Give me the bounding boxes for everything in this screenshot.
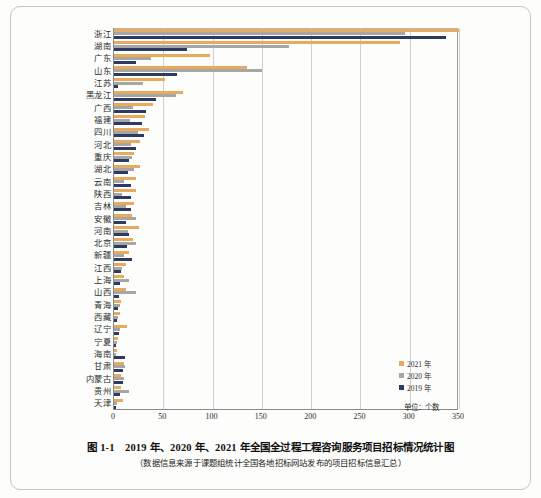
bar-group-14 xyxy=(114,201,458,213)
y-axis-label-26: 海南 xyxy=(94,350,111,359)
x-tick-50: 50 xyxy=(158,412,166,421)
bar-2019年-宁夏 xyxy=(114,344,116,347)
bar-2019年-黑龙江 xyxy=(114,98,156,101)
bar-2019年-河北 xyxy=(114,147,136,150)
bar-2019年-北京 xyxy=(114,245,127,248)
bar-2019年-新疆 xyxy=(114,258,132,261)
legend-item-2019年[interactable]: 2019 年 xyxy=(399,381,451,393)
bar-2019年-陕西 xyxy=(114,196,131,199)
y-axis-label-12: 云南 xyxy=(94,178,111,187)
plot-area xyxy=(113,28,458,410)
unit-label: 单位：个数 xyxy=(404,401,439,412)
bar-2019年-福建 xyxy=(114,122,142,125)
bar-2019年-安徽 xyxy=(114,221,126,224)
y-axis-label-17: 北京 xyxy=(94,239,111,248)
bar-group-22 xyxy=(114,299,458,311)
y-axis-label-16: 河南 xyxy=(94,227,111,236)
x-tick-150: 150 xyxy=(255,412,267,421)
legend-item-2020年[interactable]: 2020 年 xyxy=(399,369,451,381)
figure-caption: 图 1-1 2019 年、2020 年、2021 年全国全过程工程咨询服务项目招… xyxy=(0,440,541,471)
bar-2019年-甘肃 xyxy=(114,369,123,372)
y-axis-label-0: 浙江 xyxy=(94,30,111,39)
legend-swatch-icon xyxy=(399,373,404,378)
y-axis-label-30: 天津 xyxy=(94,399,111,408)
bar-group-1 xyxy=(114,40,458,52)
y-axis-label-9: 河北 xyxy=(94,141,111,150)
bar-group-11 xyxy=(114,164,458,176)
bar-2019年-广西 xyxy=(114,110,146,113)
y-axis-label-5: 黑龙江 xyxy=(86,91,111,100)
bar-2019年-四川 xyxy=(114,134,144,137)
y-axis-label-6: 广西 xyxy=(94,104,111,113)
x-tick-250: 250 xyxy=(353,412,365,421)
y-axis-label-2: 广东 xyxy=(94,54,111,63)
bar-group-0 xyxy=(114,28,458,40)
bar-2019年-吉林 xyxy=(114,208,131,211)
bar-2019年-辽宁 xyxy=(114,332,119,335)
bar-group-20 xyxy=(114,274,458,286)
bar-group-25 xyxy=(114,336,458,348)
bar-2019年-云南 xyxy=(114,184,131,187)
legend-swatch-icon xyxy=(399,361,404,366)
y-axis-label-28: 内蒙古 xyxy=(86,375,111,384)
bar-group-15 xyxy=(114,213,458,225)
y-axis-label-29: 贵州 xyxy=(94,387,111,396)
bar-group-21 xyxy=(114,287,458,299)
y-axis-category-labels: 浙江湖南广东山东江苏黑龙江广西福建四川河北重庆湖北云南陕西吉林安徽河南北京新疆江… xyxy=(58,28,111,410)
x-tick-100: 100 xyxy=(206,412,218,421)
y-axis-label-7: 福建 xyxy=(94,116,111,125)
bar-group-12 xyxy=(114,176,458,188)
bar-2019年-湖南 xyxy=(114,48,187,51)
caption-source-note: （数据信息来源于课题组统计全国各地招标网站发布的项目招标信息汇总） xyxy=(0,456,541,471)
bar-group-3 xyxy=(114,65,458,77)
legend-swatch-icon xyxy=(399,385,404,390)
y-axis-label-21: 山西 xyxy=(94,288,111,297)
bar-2019年-青海 xyxy=(114,307,118,310)
bar-2019年-湖北 xyxy=(114,171,128,174)
bar-group-4 xyxy=(114,77,458,89)
bar-group-7 xyxy=(114,114,458,126)
x-tick-350: 350 xyxy=(452,412,464,421)
bar-group-5 xyxy=(114,90,458,102)
y-axis-label-8: 四川 xyxy=(94,128,111,137)
x-axis-tick-labels: 050100150200250300350 xyxy=(113,412,458,426)
bar-2019年-上海 xyxy=(114,282,120,285)
y-axis-label-18: 新疆 xyxy=(94,251,111,260)
y-axis-label-13: 陕西 xyxy=(94,190,111,199)
x-tick-200: 200 xyxy=(304,412,316,421)
bar-2019年-西藏 xyxy=(114,319,117,322)
bar-group-8 xyxy=(114,127,458,139)
bar-group-19 xyxy=(114,262,458,274)
bar-2019年-山西 xyxy=(114,295,119,298)
legend-label: 2021 年 xyxy=(407,358,431,369)
bar-2019年-重庆 xyxy=(114,159,129,162)
bar-2019年-天津 xyxy=(114,406,116,409)
chart-legend: 2021 年2020 年2019 年 xyxy=(399,357,451,393)
y-axis-label-20: 上海 xyxy=(94,276,111,285)
x-tick-0: 0 xyxy=(111,412,115,421)
legend-item-2021年[interactable]: 2021 年 xyxy=(399,357,451,369)
bar-2019年-广东 xyxy=(114,61,136,64)
bar-2019年-山东 xyxy=(114,73,177,76)
caption-title: 图 1-1 2019 年、2020 年、2021 年全国全过程工程咨询服务项目招… xyxy=(0,440,541,456)
bar-group-10 xyxy=(114,151,458,163)
y-axis-label-27: 甘肃 xyxy=(94,362,111,371)
bar-2019年-海南 xyxy=(114,356,125,359)
bar-group-23 xyxy=(114,311,458,323)
y-axis-label-1: 湖南 xyxy=(94,42,111,51)
bar-2019年-江西 xyxy=(114,270,121,273)
bar-rows xyxy=(114,28,458,409)
legend-label: 2020 年 xyxy=(407,370,431,381)
y-axis-label-19: 江西 xyxy=(94,264,111,273)
y-axis-label-22: 青海 xyxy=(94,301,111,310)
bar-group-13 xyxy=(114,188,458,200)
bar-group-9 xyxy=(114,139,458,151)
gridline-350 xyxy=(459,28,460,409)
x-tick-300: 300 xyxy=(403,412,415,421)
bar-2019年-江苏 xyxy=(114,85,118,88)
y-axis-label-23: 西藏 xyxy=(94,313,111,322)
bar-group-16 xyxy=(114,225,458,237)
bar-group-24 xyxy=(114,324,458,336)
bar-group-2 xyxy=(114,53,458,65)
y-axis-label-4: 江苏 xyxy=(94,79,111,88)
